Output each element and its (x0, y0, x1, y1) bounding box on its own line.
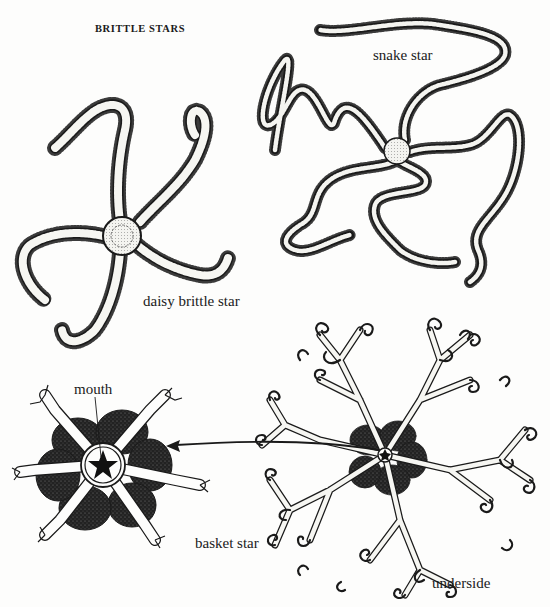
daisy-brittle-star-label: daisy brittle star (143, 294, 240, 309)
mouth-callout-label: mouth (74, 382, 112, 397)
snake-star-label: snake star (373, 48, 433, 63)
basket-star-mouth-detail-drawing (12, 385, 210, 548)
arrow-pointer (166, 440, 378, 452)
basket-star-label: basket star (195, 536, 259, 551)
illustration-plate: BRITTLE STARS (0, 0, 550, 607)
illustration-artwork (0, 0, 550, 607)
underside-label: underside (432, 576, 490, 591)
basket-star-underside-drawing (256, 319, 536, 598)
